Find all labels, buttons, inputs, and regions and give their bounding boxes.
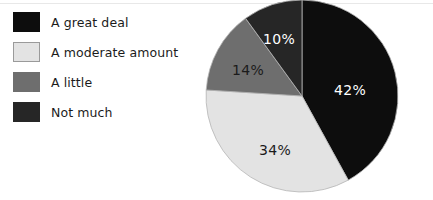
pie-container: 42% 34% 14% 10%: [0, 0, 433, 200]
pie-svg: [0, 0, 433, 200]
pie-chart-figure: A great deal A moderate amount A little …: [0, 0, 433, 200]
